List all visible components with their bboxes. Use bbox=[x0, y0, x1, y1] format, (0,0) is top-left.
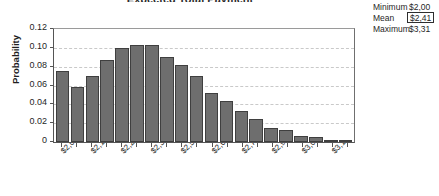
x-tick-mark bbox=[317, 143, 318, 147]
bar bbox=[294, 136, 308, 142]
x-tick-mark bbox=[136, 143, 137, 147]
x-tick-mark bbox=[76, 143, 77, 147]
bar bbox=[190, 76, 204, 142]
x-tick-mark bbox=[166, 143, 167, 147]
statistics-value: $3,31 bbox=[407, 24, 432, 34]
y-tick-label: 0.06 bbox=[9, 79, 47, 89]
plot-area bbox=[53, 28, 355, 143]
bar bbox=[309, 137, 323, 142]
x-tick-mark bbox=[257, 143, 258, 147]
bar bbox=[264, 128, 278, 142]
bar bbox=[279, 130, 293, 142]
bar-series bbox=[54, 29, 354, 142]
y-tick-label: 0.04 bbox=[9, 97, 47, 107]
y-tick-label: 0 bbox=[9, 135, 47, 145]
bar bbox=[175, 65, 189, 142]
statistics-row: Minimum$2,00 bbox=[373, 1, 439, 12]
x-tick-mark bbox=[106, 143, 107, 147]
statistics-value: $2,41 bbox=[407, 12, 434, 23]
bar bbox=[235, 111, 249, 142]
chart-screenshot: Expected Total Payment Probability 0.120… bbox=[0, 0, 439, 196]
bar bbox=[130, 45, 144, 142]
bar bbox=[100, 60, 114, 142]
bar bbox=[145, 45, 159, 142]
y-tick-label: 0.10 bbox=[9, 41, 47, 51]
bar bbox=[249, 119, 263, 142]
y-tick-label: 0.08 bbox=[9, 60, 47, 70]
statistics-panel: Minimum$2,00Mean$2,41Maximum$3,31 bbox=[373, 1, 439, 34]
bar bbox=[56, 71, 70, 142]
statistics-row: Mean$2,41 bbox=[373, 12, 439, 23]
statistics-row: Maximum$3,31 bbox=[373, 23, 439, 34]
bar bbox=[86, 76, 100, 142]
statistics-label: Mean bbox=[373, 13, 407, 23]
x-tick-mark bbox=[287, 143, 288, 147]
statistics-label: Minimum bbox=[373, 2, 407, 12]
x-tick-mark bbox=[196, 143, 197, 147]
bar bbox=[160, 57, 174, 142]
bar bbox=[324, 140, 338, 142]
x-tick-mark bbox=[347, 143, 348, 147]
bar bbox=[205, 93, 219, 142]
x-tick-mark bbox=[227, 143, 228, 147]
bar bbox=[115, 48, 129, 142]
statistics-value: $2,00 bbox=[407, 2, 432, 12]
y-tick-label: 0.02 bbox=[9, 116, 47, 126]
bar bbox=[339, 140, 353, 142]
statistics-label: Maximum bbox=[373, 24, 407, 34]
bar bbox=[220, 101, 234, 142]
page-title: Expected Total Payment bbox=[60, 0, 320, 2]
bar bbox=[71, 87, 85, 142]
y-tick-label: 0.12 bbox=[9, 22, 47, 32]
